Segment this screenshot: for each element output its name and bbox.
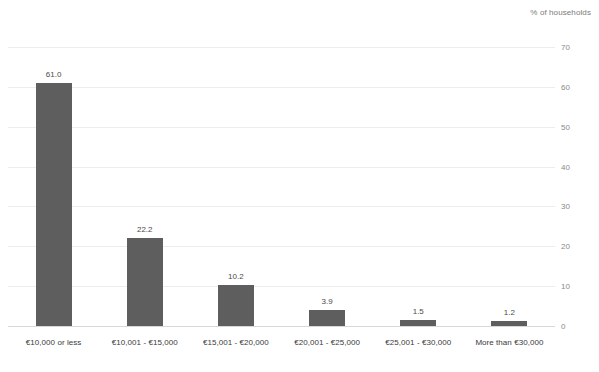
y-axis-tick-label: 10 — [557, 282, 585, 291]
category-axis-label: €10,001 - €15,000 — [112, 338, 178, 347]
gridline-50 — [8, 127, 555, 128]
y-axis-tick-label: 40 — [557, 162, 585, 171]
y-axis-tick-label: 20 — [557, 242, 585, 251]
bar-value-label: 1.2 — [504, 308, 515, 317]
y-axis-tick-label: 50 — [557, 122, 585, 131]
bar-value-label: 61.0 — [46, 70, 62, 79]
y-axis-tick-label: 60 — [557, 82, 585, 91]
gridline-20 — [8, 246, 555, 247]
bar[interactable] — [218, 285, 254, 326]
category-axis-label: €15,001 - €20,000 — [203, 338, 269, 347]
gridline-0 — [8, 326, 555, 327]
bar-value-label: 22.2 — [137, 225, 153, 234]
category-axis-label: €20,001 - €25,000 — [294, 338, 360, 347]
axis-unit-caption: % of households — [530, 8, 591, 17]
y-axis-tick-label: 30 — [557, 202, 585, 211]
bar-value-label: 1.5 — [413, 307, 424, 316]
bar-value-label: 3.9 — [322, 297, 333, 306]
bar[interactable] — [491, 321, 527, 326]
gridline-60 — [8, 87, 555, 88]
bar-value-label: 10.2 — [228, 272, 244, 281]
gridline-70 — [8, 47, 555, 48]
plot-area — [8, 47, 555, 326]
category-axis-label: More than €30,000 — [475, 338, 543, 347]
category-axis-label: €10,000 or less — [26, 338, 81, 347]
bar[interactable] — [309, 310, 345, 326]
category-axis-label: €25,001 - €30,000 — [385, 338, 451, 347]
gridline-10 — [8, 286, 555, 287]
gridline-40 — [8, 167, 555, 168]
bar[interactable] — [400, 320, 436, 326]
gridline-30 — [8, 206, 555, 207]
y-axis-tick-label: 70 — [557, 43, 585, 52]
bar[interactable] — [127, 238, 163, 326]
y-axis-tick-label: 0 — [557, 322, 585, 331]
bar[interactable] — [36, 83, 72, 326]
bar-chart: % of households 010203040506070 61.022.2… — [0, 0, 599, 372]
